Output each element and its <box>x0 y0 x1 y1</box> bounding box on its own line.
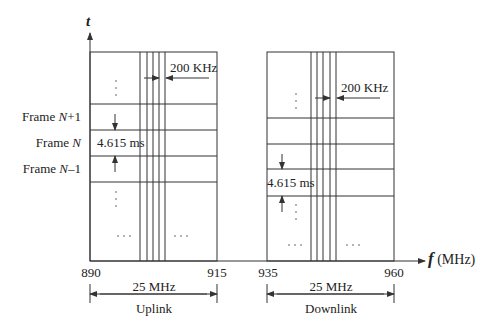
frame-next-prefix: Frame <box>22 109 58 124</box>
frame-next-var: N <box>58 109 67 124</box>
uplink-label: Uplink <box>136 302 172 316</box>
downlink-start-freq: 935 <box>258 266 278 280</box>
downlink-frame-duration: 4.615 ms <box>267 176 315 190</box>
downlink-label: Downlink <box>305 302 357 316</box>
uplink-start-freq: 890 <box>81 266 101 280</box>
frame-next-suffix: +1 <box>67 109 81 124</box>
frame-current-label: Frame N <box>36 136 81 150</box>
f-axis-label: f (MHz) <box>428 252 475 267</box>
uplink-channel-spacing: 200 KHz <box>170 61 217 75</box>
frame-prev-label: Frame N–1 <box>23 162 81 176</box>
frame-prev-prefix: Frame <box>23 161 59 176</box>
vertical-ellipsis-dots <box>115 80 297 220</box>
downlink-end-freq: 960 <box>384 266 404 280</box>
f-axis-unit: (MHz) <box>437 252 475 267</box>
downlink-bandwidth: 25 MHz <box>310 280 353 294</box>
frame-prev-suffix: –1 <box>68 161 81 176</box>
frame-next-label: Frame N+1 <box>22 110 81 124</box>
t-axis-label: t <box>86 14 90 28</box>
uplink-end-freq: 915 <box>207 266 227 280</box>
frame-current-prefix: Frame <box>36 135 72 150</box>
frame-prev-var: N <box>59 161 68 176</box>
f-axis-var: f <box>428 249 434 268</box>
uplink-bandwidth: 25 MHz <box>133 280 176 294</box>
frame-current-var: N <box>72 135 81 150</box>
uplink-frame-duration: 4.615 ms <box>97 136 145 150</box>
uplink-grid <box>90 52 217 261</box>
downlink-channel-spacing: 200 KHz <box>341 81 388 95</box>
